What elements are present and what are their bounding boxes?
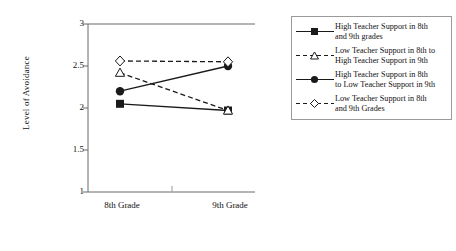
legend-item-high-high[interactable]: High Teacher Support in 8th and 9th grad… bbox=[295, 22, 447, 42]
legend-item-low-to-high[interactable]: Low Teacher Support in 8th to High Teach… bbox=[295, 46, 447, 66]
legend-sample-filled-square bbox=[295, 23, 335, 34]
data-point-s3-0 bbox=[115, 56, 124, 66]
legend: High Teacher Support in 8th and 9th grad… bbox=[291, 16, 452, 120]
legend-label-low-to-high: Low Teacher Support in 8th to High Teach… bbox=[335, 46, 435, 66]
legend-sample-filled-circle bbox=[295, 71, 335, 82]
legend-sample-open-diamond bbox=[295, 95, 335, 106]
data-point-s1-0 bbox=[115, 68, 124, 76]
legend-item-high-to-low[interactable]: High Teacher Support in 8th to Low Teach… bbox=[295, 70, 447, 90]
legend-label-low-low: Low Teacher Support in 8th and 9th Grade… bbox=[335, 94, 427, 114]
legend-item-low-low[interactable]: Low Teacher Support in 8th and 9th Grade… bbox=[295, 94, 447, 114]
legend-label-high-to-low: High Teacher Support in 8th to Low Teach… bbox=[335, 70, 435, 90]
data-point-s2-0 bbox=[116, 87, 124, 95]
data-point-s0-0 bbox=[116, 100, 124, 108]
legend-sample-open-triangle bbox=[295, 47, 335, 58]
series-lines bbox=[120, 61, 228, 111]
legend-label-high-high: High Teacher Support in 8th and 9th grad… bbox=[335, 22, 428, 42]
series-line-3 bbox=[120, 61, 228, 62]
line-chart-figure: Level of Avoidance 3 2.5 2 1.5 1 8th Gra… bbox=[0, 0, 456, 251]
